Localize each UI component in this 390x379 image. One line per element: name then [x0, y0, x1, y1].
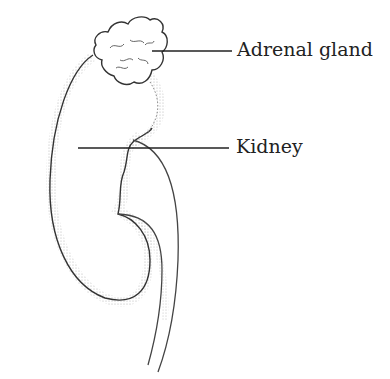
kidney — [50, 55, 161, 302]
adrenal-gland-label: Adrenal gland — [237, 38, 373, 60]
kidney-label: Kidney — [236, 135, 303, 157]
